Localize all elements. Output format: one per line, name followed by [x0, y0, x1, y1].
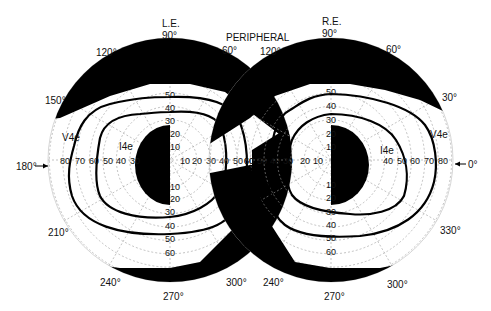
tick: 30	[165, 116, 175, 126]
tick: 40	[219, 156, 229, 166]
meridian-label: 330°	[440, 225, 461, 236]
tick: 30	[326, 115, 336, 125]
tick: 50	[233, 156, 243, 166]
tick: 20	[170, 194, 180, 204]
right-v4e-label: V4e	[430, 129, 448, 140]
peripheral-label: PERIPHERAL	[226, 32, 290, 43]
tick: 50	[326, 87, 336, 97]
tick: 10	[313, 156, 323, 166]
left-eye-label: L.E.	[162, 18, 180, 29]
tick: 80	[60, 156, 70, 166]
visual-field-svg: 80 70 60 50 40 30 10 20 30 40 50 60 50 4…	[0, 0, 491, 311]
tick: 50	[397, 156, 407, 166]
left-i4e-label: I4e	[119, 141, 133, 152]
meridian-label: 150°	[45, 95, 66, 106]
right-eye-field: 60 50 40 30 20 10 40 50 60 70 80 50 40 3…	[200, 0, 491, 311]
tick: 80	[438, 156, 448, 166]
tick: 50	[165, 234, 175, 244]
tick: 50	[326, 233, 336, 243]
meridian-label: 300°	[387, 279, 408, 290]
tick: 20	[300, 156, 310, 166]
meridian-label: 90°	[162, 30, 177, 41]
left-v4e-label: V4e	[62, 132, 80, 143]
tick: 20	[326, 193, 336, 203]
meridian-label: 240°	[100, 277, 121, 288]
tick: 70	[75, 156, 85, 166]
tick: 50	[165, 90, 175, 100]
tick: 30	[283, 156, 293, 166]
tick: 60	[244, 156, 254, 166]
tick: 60	[165, 248, 175, 258]
tick: 20	[192, 156, 202, 166]
meridian-label: 300°	[226, 277, 247, 288]
tick: 60	[410, 156, 420, 166]
tick: 10	[326, 180, 336, 190]
meridian-label: 60°	[222, 45, 237, 56]
meridian-label: 120°	[260, 46, 281, 57]
tick: 40	[383, 156, 393, 166]
tick: 20	[326, 129, 336, 139]
tick: 30	[130, 156, 140, 166]
meridian-label: 90°	[322, 28, 337, 39]
right-eye-label: R.E.	[322, 16, 341, 27]
left-eye-field: 80 70 60 50 40 30 10 20 30 40 50 60 50 4…	[0, 0, 300, 311]
meridian-label: 240°	[263, 277, 284, 288]
right-central-scotoma	[331, 125, 369, 205]
meridian-label: 30°	[442, 92, 457, 103]
meridian-label: 180°	[16, 161, 37, 172]
meridian-label: 120°	[96, 47, 117, 58]
tick: 40	[165, 103, 175, 113]
right-i4e-label: I4e	[380, 145, 394, 156]
tick: 50	[257, 156, 267, 166]
tick: 60	[89, 156, 99, 166]
left-central-scotoma	[135, 125, 170, 205]
tick: 10	[180, 156, 190, 166]
meridian-label: 60°	[386, 44, 401, 55]
tick: 60	[326, 247, 336, 257]
meridian-label: 270°	[324, 291, 345, 302]
tick: 40	[326, 220, 336, 230]
tick: 10	[170, 142, 180, 152]
tick: 40	[270, 156, 280, 166]
tick: 40	[326, 101, 336, 111]
tick: 40	[165, 221, 175, 231]
tick: 50	[103, 156, 113, 166]
left-arrow-icon	[35, 164, 48, 169]
right-arrow-icon	[455, 162, 466, 167]
meridian-label: 210°	[48, 227, 69, 238]
tick: 40	[116, 156, 126, 166]
tick: 20	[170, 129, 180, 139]
tick: 30	[165, 207, 175, 217]
tick: 30	[206, 156, 216, 166]
tick: 10	[170, 182, 180, 192]
tick: 10	[326, 142, 336, 152]
tick: 30	[326, 207, 336, 217]
meridian-label: 0°	[468, 159, 478, 170]
tick: 70	[424, 156, 434, 166]
meridian-label: 270°	[163, 291, 184, 302]
visual-field-diagram: 80 70 60 50 40 30 10 20 30 40 50 60 50 4…	[0, 0, 491, 311]
